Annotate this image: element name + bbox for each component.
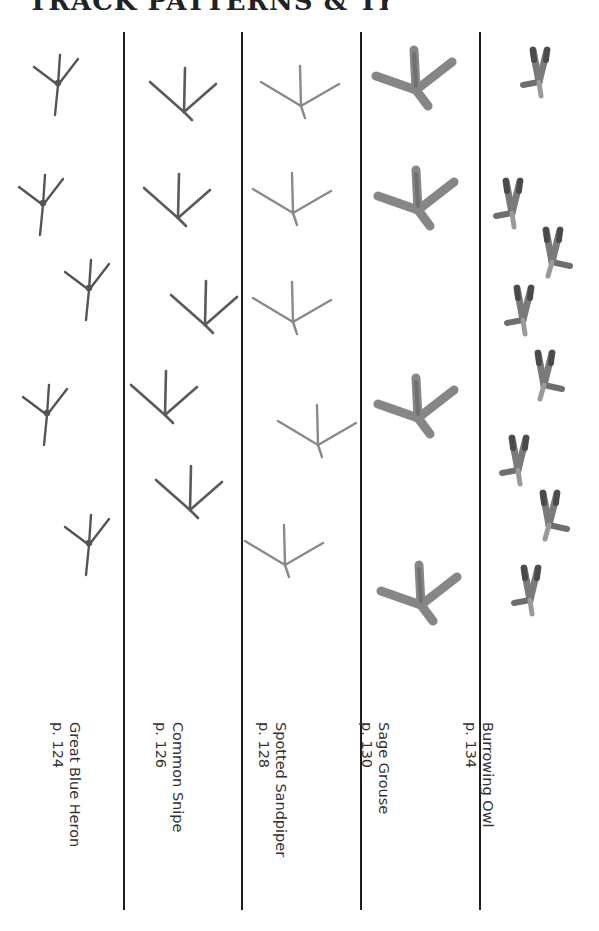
grouse-track — [376, 50, 452, 106]
owl-track — [543, 493, 567, 539]
species-label-great-blue-heron: Great Blue Heron p. 124 — [49, 722, 83, 847]
owl-track — [502, 438, 526, 484]
sandpiper-track — [278, 405, 356, 457]
snipe-track — [156, 466, 222, 518]
snipe-track — [144, 174, 210, 226]
species-name: Sage Grouse — [375, 722, 392, 814]
species-name: Spotted Sandpiper — [272, 722, 289, 857]
sandpiper-track — [253, 282, 331, 334]
species-page: p. 134 — [462, 722, 479, 828]
species-label-spotted-sandpiper: Spotted Sandpiper p. 128 — [255, 722, 289, 857]
heron-track — [34, 55, 78, 115]
heron-track — [23, 385, 67, 445]
heron-track — [65, 515, 109, 575]
species-label-sage-grouse: Sage Grouse p. 130 — [358, 722, 392, 814]
owl-track — [507, 288, 531, 334]
snipe-track — [150, 68, 216, 120]
owl-track — [496, 181, 520, 227]
species-name: Common Snipe — [169, 722, 186, 832]
owl-track — [523, 50, 547, 96]
heron-track — [19, 175, 63, 235]
sandpiper-track — [245, 525, 323, 577]
heron-track — [65, 260, 109, 320]
owl-track — [546, 230, 570, 276]
snipe-track — [171, 281, 237, 333]
species-name: Burrowing Owl — [479, 722, 496, 828]
tracks-layer — [0, 0, 599, 931]
species-label-common-snipe: Common Snipe p. 126 — [152, 722, 186, 832]
grouse-track — [378, 378, 454, 434]
grouse-track — [378, 170, 454, 226]
species-name: Great Blue Heron — [66, 722, 83, 847]
species-label-burrowing-owl: Burrowing Owl p. 134 — [462, 722, 496, 828]
owl-track — [538, 353, 562, 399]
species-page: p. 128 — [255, 722, 272, 857]
sandpiper-track — [253, 173, 331, 225]
sandpiper-track — [261, 66, 339, 118]
species-page: p. 124 — [49, 722, 66, 847]
snipe-track — [131, 371, 197, 423]
owl-track — [514, 568, 538, 614]
grouse-track — [381, 565, 457, 621]
species-page: p. 126 — [152, 722, 169, 832]
species-page: p. 130 — [358, 722, 375, 814]
